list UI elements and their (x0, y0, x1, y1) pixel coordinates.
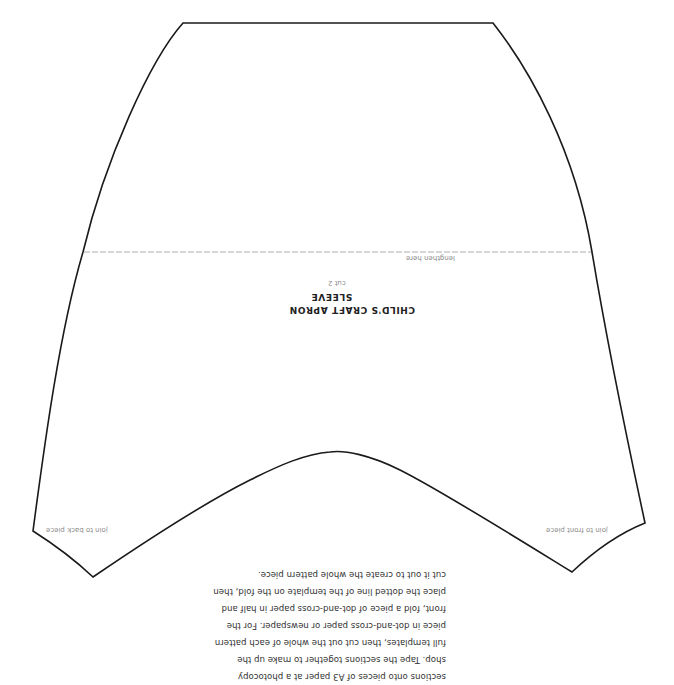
join-back-label: join to back piece (46, 526, 108, 534)
instruction-line: shop. Tape the sections together to make… (236, 651, 446, 668)
instruction-line: place the dotted line of the template on… (236, 583, 446, 600)
instruction-line: cut it out to create the whole pattern p… (236, 566, 446, 583)
lengthen-here-label: lengthen here (406, 254, 455, 262)
pattern-title: CHILD'S CRAFT APRON (289, 305, 415, 315)
instruction-line: front, fold a piece of dot-and-cross pap… (236, 600, 446, 617)
instructions-paragraph: sections onto pieces of A3 paper at a ph… (236, 566, 446, 685)
join-front-label: join to front piece (546, 526, 608, 534)
cut-instruction: cut 2 (328, 279, 346, 287)
instruction-line: full templates, then cut out the whole o… (236, 634, 446, 651)
instruction-line: piece in dot-and-cross paper or newspape… (236, 617, 446, 634)
pattern-subtitle: SLEEVE (311, 292, 352, 302)
instruction-line: sections onto pieces of A3 paper at a ph… (236, 668, 446, 685)
